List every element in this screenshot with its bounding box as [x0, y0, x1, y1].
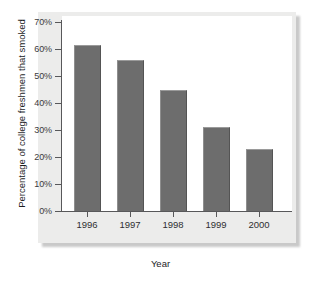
bar-1998 [160, 90, 187, 212]
x-tick-label-1997: 1997 [119, 219, 140, 230]
x-tick-label-2000: 2000 [248, 219, 269, 230]
y-tick-mark [55, 49, 61, 50]
y-tick-mark [55, 211, 61, 212]
x-tick-label-1996: 1996 [76, 219, 97, 230]
x-tick-mark [259, 212, 260, 217]
x-tick-mark [173, 212, 174, 217]
bar-1996 [74, 45, 101, 211]
y-tick-mark [55, 22, 61, 23]
x-tick-mark [130, 212, 131, 217]
y-tick-mark [55, 103, 61, 104]
x-tick-mark [87, 212, 88, 217]
x-axis-title: Year [0, 258, 321, 269]
x-tick-label-1998: 1998 [162, 219, 183, 230]
y-tick-mark [55, 184, 61, 185]
y-axis-line [61, 20, 62, 212]
x-axis-line [61, 211, 292, 212]
y-tick-mark [55, 76, 61, 77]
y-tick-mark [55, 130, 61, 131]
x-tick-label-1999: 1999 [205, 219, 226, 230]
y-tick-mark [55, 157, 61, 158]
y-axis-title: Percentage of college freshmen that smok… [16, 11, 27, 216]
bar-1999 [203, 127, 230, 211]
bar-1997 [117, 60, 144, 211]
bar-chart-figure: 0% 10% 20% 30% 40% 50% 60% 70% 1996 1997… [0, 0, 321, 281]
bar-2000 [246, 149, 273, 211]
x-tick-mark [216, 212, 217, 217]
